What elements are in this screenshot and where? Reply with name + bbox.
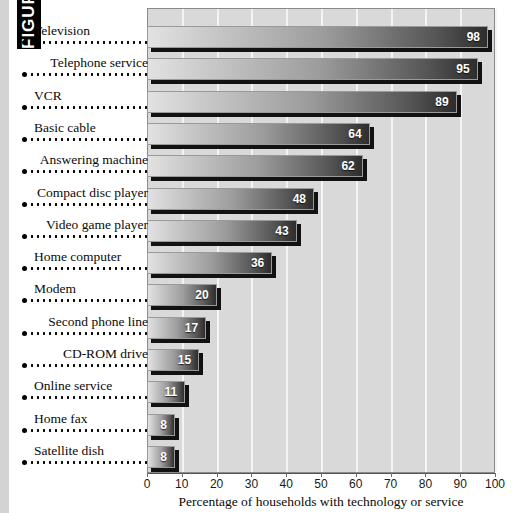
category-label-row: CD-ROM drive: [22, 341, 150, 371]
leader-bullet-icon: [22, 169, 27, 174]
leader-bullet-icon: [22, 363, 27, 368]
bar-row: 62: [147, 155, 368, 177]
bar[interactable]: 17: [147, 317, 206, 339]
leader-dots: [29, 429, 150, 432]
x-tick-label-100: 100: [485, 477, 505, 491]
bar-value-label: 95: [456, 62, 476, 76]
bar-value-label: 98: [467, 30, 487, 44]
bar[interactable]: 62: [147, 155, 363, 177]
bar[interactable]: 36: [147, 252, 272, 274]
leader-bullet-icon: [22, 331, 27, 336]
category-label-row: Home computer: [22, 244, 150, 274]
bar[interactable]: 8: [147, 446, 175, 468]
leader-bullet-icon: [22, 395, 27, 400]
category-label-text: Home fax: [34, 411, 88, 427]
leader-dots: [29, 203, 150, 206]
bar[interactable]: 95: [147, 58, 478, 80]
category-label-row: Online service: [22, 373, 150, 403]
leader-dots: [29, 235, 150, 238]
leader-bullet-icon: [22, 40, 27, 45]
category-label-text: Modem: [34, 281, 76, 297]
bar-row: 15: [147, 349, 204, 371]
category-label-text: Telephone service: [50, 55, 148, 71]
leader-line: [22, 297, 150, 304]
bar-row: 43: [147, 220, 302, 242]
category-label-text: Online service: [34, 378, 112, 394]
leader-line: [22, 394, 150, 401]
bar-value-label: 8: [160, 450, 174, 464]
leader-bullet-icon: [22, 137, 27, 142]
bar[interactable]: 11: [147, 381, 185, 403]
leader-line: [22, 201, 150, 208]
bar[interactable]: 64: [147, 123, 370, 145]
bar[interactable]: 15: [147, 349, 199, 371]
category-label-text: Television: [34, 23, 90, 39]
x-tick-label-0: 0: [144, 477, 151, 491]
leader-dots: [29, 170, 150, 173]
category-label-row: Satellite dish: [22, 438, 150, 468]
leader-bullet-icon: [22, 266, 27, 271]
x-tick-label-60: 60: [349, 477, 362, 491]
bar-value-label: 17: [185, 321, 205, 335]
bar-row: 8: [147, 446, 180, 468]
x-axis-title: Percentage of households with technology…: [147, 494, 495, 510]
bar[interactable]: 43: [147, 220, 297, 242]
bar-row: 11: [147, 381, 190, 403]
bar-row: 98: [147, 26, 493, 48]
leader-line: [22, 427, 150, 434]
bar-row: 8: [147, 414, 180, 436]
category-label-text: Compact disc player: [37, 185, 148, 201]
category-label-text: CD-ROM drive: [63, 346, 148, 362]
leader-line: [22, 233, 150, 240]
bar-value-label: 43: [275, 224, 295, 238]
category-label-text: Answering machine: [40, 152, 148, 168]
category-label-row: Compact disc player: [22, 180, 150, 210]
leader-dots: [29, 396, 150, 399]
category-label-row: Basic cable: [22, 115, 150, 145]
leader-dots: [29, 299, 150, 302]
leader-bullet-icon: [22, 72, 27, 77]
bar[interactable]: 20: [147, 284, 217, 306]
leader-dots: [29, 138, 150, 141]
bar-value-label: 64: [348, 127, 368, 141]
category-label-text: Video game player: [46, 217, 148, 233]
x-tick-label-70: 70: [384, 477, 397, 491]
leader-bullet-icon: [22, 234, 27, 239]
leader-line: [22, 71, 150, 78]
leader-line: [22, 39, 150, 46]
x-tick-label-40: 40: [280, 477, 293, 491]
bar-value-label: 8: [160, 418, 174, 432]
leader-line: [22, 168, 150, 175]
bar-row: 89: [147, 91, 462, 113]
leader-line: [22, 104, 150, 111]
category-label-row: Video game player: [22, 212, 150, 242]
leader-line: [22, 265, 150, 272]
bar-row: 95: [147, 58, 483, 80]
leader-dots: [29, 41, 150, 44]
category-label-row: Home fax: [22, 406, 150, 436]
leader-bullet-icon: [22, 105, 27, 110]
bar[interactable]: 8: [147, 414, 175, 436]
category-label-text: VCR: [34, 88, 62, 104]
category-label-row: Telephone service: [22, 50, 150, 80]
bar-value-label: 15: [178, 353, 198, 367]
leader-line: [22, 459, 150, 466]
category-label-text: Home computer: [34, 249, 121, 265]
bar-row: 36: [147, 252, 277, 274]
category-label-text: Satellite dish: [34, 443, 104, 459]
leader-bullet-icon: [22, 202, 27, 207]
bar-value-label: 36: [251, 256, 271, 270]
bar-value-label: 89: [435, 95, 455, 109]
bar[interactable]: 98: [147, 26, 488, 48]
leader-dots: [29, 106, 150, 109]
bar[interactable]: 89: [147, 91, 457, 113]
x-tick-label-20: 20: [210, 477, 223, 491]
bar-value-label: 20: [195, 288, 215, 302]
leader-dots: [29, 364, 150, 367]
leader-dots: [29, 461, 150, 464]
category-label-row: VCR: [22, 83, 150, 113]
leader-line: [22, 362, 150, 369]
x-tick-label-30: 30: [245, 477, 258, 491]
bar[interactable]: 48: [147, 188, 314, 210]
x-tick-label-50: 50: [314, 477, 327, 491]
